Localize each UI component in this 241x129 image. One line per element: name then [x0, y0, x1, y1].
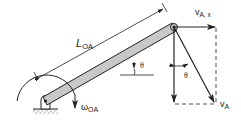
v-a-label: vA [220, 99, 230, 110]
pivot-pin [44, 99, 47, 102]
kinematics-diagram: LOA θ ωOA vA, x vA θ [0, 0, 241, 129]
v-a-arrow [174, 27, 214, 102]
velocity-angle-label: θ [184, 71, 188, 80]
ground-support [33, 109, 58, 114]
omega-label: ωOA [81, 102, 98, 113]
velocity-angle-arc [175, 64, 188, 66]
length-label: LOA [76, 37, 93, 51]
bar-angle-arrow [134, 62, 135, 75]
bar-angle-label: θ [140, 61, 144, 70]
v-ax-label: vA, x [195, 7, 211, 18]
